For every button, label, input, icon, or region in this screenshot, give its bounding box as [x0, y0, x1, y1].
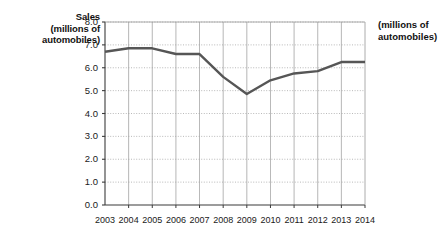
horizontal-gridlines: [105, 22, 365, 182]
y-tick-label: 8.0: [72, 17, 98, 27]
y-tick-label: 1.0: [72, 177, 98, 187]
y-tick-label: 7.0: [72, 40, 98, 50]
x-tick-label: 2014: [350, 215, 380, 225]
sales-data-line: [105, 48, 365, 94]
y-axis-tick-marks: [102, 22, 365, 208]
y-tick-label: 6.0: [72, 63, 98, 73]
y-tick-label: 2.0: [72, 154, 98, 164]
y-tick-label: 5.0: [72, 86, 98, 96]
y-tick-label: 0.0: [72, 200, 98, 210]
y-tick-label: 3.0: [72, 131, 98, 141]
y-tick-label: 4.0: [72, 109, 98, 119]
